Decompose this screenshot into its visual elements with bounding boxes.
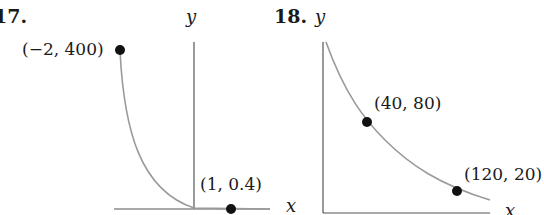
right-y-label: y <box>315 6 325 27</box>
left-x-label: x <box>286 195 296 215</box>
right-point-label-2: (120, 20) <box>464 164 542 184</box>
left-point-neg2-400 <box>115 45 125 55</box>
graphs-canvas <box>0 0 544 215</box>
left-point-1-0.4 <box>226 204 236 214</box>
right-point-label-1: (40, 80) <box>374 93 441 113</box>
right-point-120-20 <box>452 186 462 196</box>
right-point-40-80 <box>362 117 372 127</box>
left-point-label-2: (1, 0.4) <box>200 174 262 194</box>
left-y-label: y <box>186 6 196 27</box>
problem-number-17: 17. <box>0 5 27 27</box>
left-point-label-1: (−2, 400) <box>22 39 104 59</box>
problem-number-18: 18. <box>274 5 307 27</box>
right-x-label: x <box>505 200 515 215</box>
